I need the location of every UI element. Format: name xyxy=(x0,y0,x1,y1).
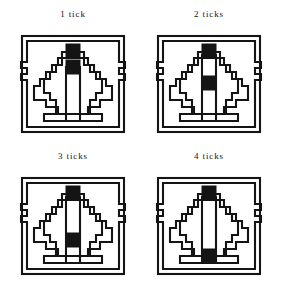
panel-2-caption: 2 ticks xyxy=(144,8,274,20)
fixed-black-square xyxy=(202,44,216,57)
panel-3: 3 ticks xyxy=(8,150,138,288)
fixed-black-square xyxy=(66,186,80,199)
panel-1-caption: 1 tick xyxy=(8,8,138,20)
stepped-bell-outer xyxy=(34,200,112,256)
panel-2-artwork xyxy=(144,22,274,146)
panel-2-svg xyxy=(144,22,274,146)
panel-3-svg xyxy=(8,164,138,288)
panel-4-svg xyxy=(144,164,274,288)
panel-4-caption: 4 ticks xyxy=(144,150,274,162)
panel-1-svg xyxy=(8,22,138,146)
fixed-black-square xyxy=(66,44,80,57)
panel-1: 1 tick xyxy=(8,8,138,146)
panel-3-caption: 3 ticks xyxy=(8,150,138,162)
panel-3-artwork xyxy=(8,164,138,288)
tick-marker-square xyxy=(202,249,216,263)
tick-marker-square xyxy=(66,233,80,247)
stepped-bell-inner xyxy=(44,194,102,263)
panel-4: 4 ticks xyxy=(144,150,274,288)
fixed-black-square xyxy=(202,186,216,199)
tick-marker-square xyxy=(66,60,80,74)
panel-1-artwork xyxy=(8,22,138,146)
panel-2: 2 ticks xyxy=(144,8,274,146)
figure-root: 1 tick 2 ticks xyxy=(0,0,287,296)
tick-marker-square xyxy=(202,76,216,90)
panel-4-artwork xyxy=(144,164,274,288)
stepped-bell-outer xyxy=(170,200,248,256)
